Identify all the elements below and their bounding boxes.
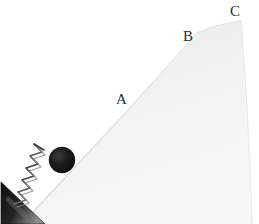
ball (49, 147, 75, 173)
incline-ramp (22, 21, 252, 224)
incline-fill (22, 21, 252, 224)
compression-spring (14, 144, 45, 207)
spring-anchor-wedge (1, 182, 45, 224)
physics-diagram: A B C (0, 0, 259, 224)
scene-canvas (0, 0, 259, 224)
point-label-c: C (230, 4, 240, 19)
wedge-body (1, 182, 45, 224)
spring-coils (14, 144, 42, 204)
point-label-a: A (116, 92, 127, 107)
point-label-b: B (183, 29, 193, 44)
